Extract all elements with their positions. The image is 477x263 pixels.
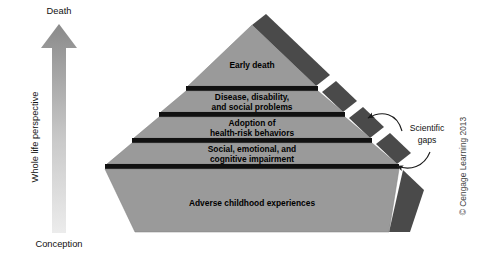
tier-1-line-1: and social problems (212, 102, 293, 112)
tier-3-line-0: Social, emotional, and (208, 144, 296, 154)
gap-band-1 (159, 112, 345, 117)
axis-vertical-label: Whole life perspective (30, 92, 40, 183)
axis-bottom-label: Conception (35, 239, 82, 249)
pyramid-tier-cognitive-impairment: Social, emotional, and cognitive impairm… (107, 143, 397, 164)
pyramid-tier-disease-disability: Disease, disability, and social problems (161, 91, 343, 112)
tier-1-line-0: Disease, disability, (215, 92, 289, 102)
tier-2-line-1: health-risk behaviors (210, 128, 295, 138)
gaps-label-line-1: Scientific (410, 123, 445, 133)
tier-4-line-0: Adverse childhood experiences (189, 198, 315, 208)
life-perspective-axis: Death Conception Whole life perspective (30, 6, 83, 249)
gaps-label-line-2: gaps (418, 135, 437, 145)
pyramid-tier-adverse-childhood: Adverse childhood experiences (105, 169, 399, 232)
gap-band-0 (186, 86, 318, 91)
tier-2-line-0: Adoption of (229, 118, 276, 128)
copyright-notice: © Cengage Learning 2013 (458, 116, 468, 215)
pyramid-tier-health-risk: Adoption of health-risk behaviors (134, 117, 370, 138)
axis-top-label: Death (47, 6, 72, 16)
tier-0-line-0: Early death (229, 60, 274, 70)
pyramid-front-faces: Early death Disease, disability, and soc… (105, 25, 399, 232)
tier-3-line-1: cognitive impairment (210, 154, 294, 164)
life-arrow-glyph (41, 24, 77, 233)
ace-pyramid-figure: Death Conception Whole life perspective … (0, 0, 477, 263)
gap-band-3 (105, 164, 399, 169)
figure-root: Death Conception Whole life perspective … (0, 0, 477, 263)
gap-band-2 (132, 138, 372, 143)
